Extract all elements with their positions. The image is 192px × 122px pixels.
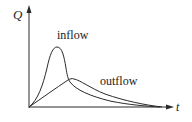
y-axis-arrow-icon (27, 5, 32, 13)
inflow-label: inflow (57, 28, 89, 42)
x-axis-label: t (176, 100, 180, 114)
hydrograph-diagram: Q t inflow outflow (0, 0, 192, 122)
y-axis-label: Q (13, 7, 23, 22)
inflow-curve (29, 47, 160, 107)
outflow-label: outflow (100, 74, 138, 88)
x-axis-arrow-icon (166, 105, 174, 110)
outflow-curve (29, 79, 162, 107)
